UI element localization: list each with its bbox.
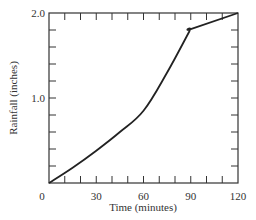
- rainfall-curve: [49, 13, 238, 183]
- y-axis-tick-labels: 1.02.0: [31, 7, 45, 104]
- x-tick-label: 90: [185, 190, 197, 202]
- y-tick-label: 2.0: [31, 7, 45, 19]
- rainfall-chart: 0306090120 1.02.0 Time (minutes) Rainfal…: [0, 0, 256, 220]
- x-axis-title: Time (minutes): [109, 201, 177, 214]
- plot-border: [49, 13, 238, 183]
- x-tick-label: 120: [230, 190, 247, 202]
- y-tick-label: 1.0: [31, 92, 45, 104]
- y-axis-ticks: [49, 30, 238, 166]
- plot-frame: [49, 13, 238, 183]
- x-tick-label: 0: [39, 190, 45, 202]
- x-tick-label: 30: [91, 190, 103, 202]
- y-axis-title: Rainfall (inches): [7, 61, 20, 135]
